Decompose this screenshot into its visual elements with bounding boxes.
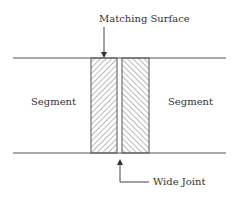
matching-surface-label: Matching Surface <box>99 13 190 25</box>
diagram-canvas: Matching Surface Segment Segment Wide Jo… <box>0 0 243 203</box>
matching-surface-arrow-icon <box>101 27 107 58</box>
segment-right-label: Segment <box>168 96 213 108</box>
segment-left-label: Segment <box>31 96 76 108</box>
wide-joint-arrow-icon <box>117 159 149 182</box>
left-hatched-block <box>91 58 117 153</box>
wide-joint-label: Wide Joint <box>153 176 206 188</box>
right-hatched-block <box>122 58 149 153</box>
